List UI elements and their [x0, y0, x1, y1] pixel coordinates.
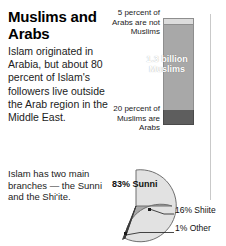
bar-segment-arab-muslims: [163, 110, 194, 125]
branches-note: Islam has two main branches — the Sunni …: [8, 168, 104, 203]
pie-label-other: 1% Other: [175, 223, 211, 233]
pie-label-sunni: 83% Sunni: [112, 179, 158, 189]
bar-label-total-muslims: 1.3 billion Muslims: [136, 54, 198, 74]
bar-label-non-muslim-arabs: 5 percent of Arabs are not Muslims: [108, 8, 160, 37]
bar-segment-non-muslim-arabs: [163, 18, 194, 25]
pie-chart: 83% Sunni 16% Shiite 1% Other: [96, 166, 226, 246]
pie-label-shiite: 16% Shiite: [175, 205, 216, 215]
intro-paragraph: Islam originated in Arabia, but about 80…: [8, 45, 108, 124]
infographic-canvas: Muslims and Arabs Islam originated in Ar…: [0, 0, 226, 246]
bar-label-muslims-who-are-arabs: 20 percent of Muslims are Arabs: [104, 104, 160, 133]
page-title: Muslims and Arabs: [8, 8, 104, 42]
pie-marker-shiite: [148, 208, 151, 211]
